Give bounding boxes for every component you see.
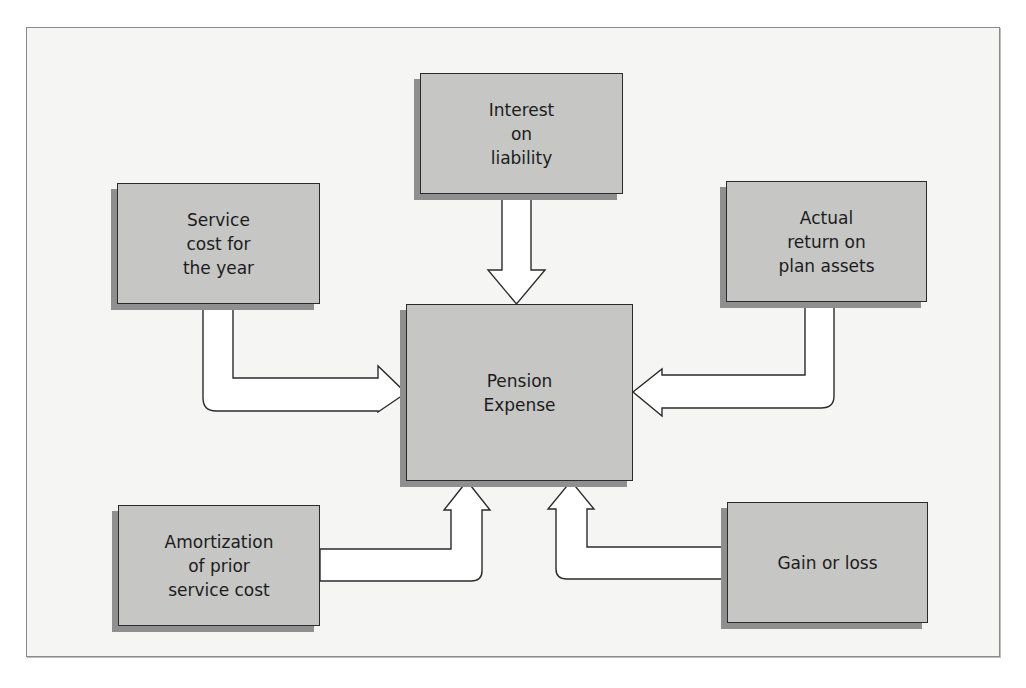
component-box-gain-or-loss: Gain or loss — [727, 502, 928, 623]
component-label: Amortization of prior service cost — [165, 530, 274, 602]
component-box-interest-on-liability: Interest on liability — [420, 73, 623, 194]
component-box-actual-return: Actual return on plan assets — [726, 181, 927, 302]
arrow-actual-to-pension — [633, 302, 834, 416]
center-box-pension-expense: Pension Expense — [406, 304, 633, 481]
component-label: Gain or loss — [777, 551, 877, 575]
arrow-gain-to-pension — [548, 481, 727, 579]
component-box-amortization: Amortization of prior service cost — [118, 505, 320, 626]
arrow-service-to-pension — [203, 304, 406, 412]
component-label: Service cost for the year — [183, 208, 254, 280]
arrow-amort-to-pension — [320, 481, 490, 581]
arrow-interest-to-pension — [488, 194, 545, 304]
center-label: Pension Expense — [483, 369, 555, 417]
component-box-service-cost: Service cost for the year — [117, 183, 320, 304]
component-label: Actual return on plan assets — [778, 206, 874, 278]
component-label: Interest on liability — [489, 98, 555, 170]
